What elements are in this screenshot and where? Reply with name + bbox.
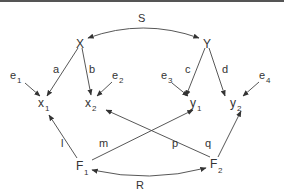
path-diagram: X Y F 1 F 2 x 1 x 2 y 1 y 2 e 1 [0, 0, 284, 196]
svg-text:x: x [38, 96, 44, 110]
svg-text:1: 1 [17, 76, 22, 85]
path-label-p: p [172, 137, 178, 149]
latent-node-Y: Y [203, 37, 211, 51]
edge-X-x1 [47, 48, 78, 96]
path-label-q: q [205, 137, 211, 149]
svg-text:2: 2 [237, 104, 242, 113]
observed-node-x2: x 2 [85, 96, 97, 113]
svg-text:4: 4 [266, 76, 271, 85]
svg-text:F: F [76, 159, 83, 173]
svg-text:F: F [210, 157, 217, 171]
svg-text:2: 2 [92, 104, 97, 113]
path-label-d: d [222, 63, 228, 75]
latent-node-F1: F 1 [76, 159, 89, 177]
edge-F1-y1 [92, 110, 193, 160]
path-label-l: l [61, 137, 63, 149]
error-term-e2: e 2 [112, 69, 124, 85]
path-label-S: S [138, 12, 145, 24]
svg-text:y: y [190, 96, 196, 110]
error-term-e1: e 1 [10, 69, 22, 85]
error-term-e4: e 4 [259, 69, 271, 85]
observed-node-y2: y 2 [230, 96, 242, 113]
svg-text:e: e [112, 69, 118, 81]
latent-node-F2: F 2 [210, 157, 223, 175]
svg-text:3: 3 [168, 76, 173, 85]
error-term-e3: e 3 [161, 69, 173, 85]
edge-e1-x1 [25, 83, 40, 96]
covariance-edge-R [92, 168, 206, 176]
edge-e2-x2 [97, 82, 112, 96]
path-label-a: a [53, 63, 60, 75]
path-label-m: m [99, 137, 108, 149]
edge-F2-x2 [106, 110, 210, 157]
svg-text:e: e [161, 69, 167, 81]
svg-text:2: 2 [119, 76, 124, 85]
svg-text:e: e [10, 69, 16, 81]
covariance-edge-S [88, 28, 199, 38]
edge-F2-y2 [218, 111, 241, 157]
svg-text:y: y [230, 96, 236, 110]
svg-text:1: 1 [45, 104, 50, 113]
top-border-line [0, 0, 284, 2]
path-label-c: c [185, 63, 191, 75]
svg-text:x: x [85, 96, 91, 110]
edge-e4-y2 [243, 82, 259, 96]
diagram-canvas: X Y F 1 F 2 x 1 x 2 y 1 y 2 e 1 [0, 0, 284, 196]
edge-e3-y1 [172, 83, 188, 96]
path-label-b: b [89, 63, 95, 75]
svg-text:e: e [259, 69, 265, 81]
svg-text:2: 2 [218, 166, 223, 175]
svg-text:1: 1 [197, 104, 202, 113]
svg-text:1: 1 [84, 168, 89, 177]
latent-node-X: X [76, 37, 84, 51]
path-label-R: R [136, 179, 144, 191]
observed-node-x1: x 1 [38, 96, 50, 113]
